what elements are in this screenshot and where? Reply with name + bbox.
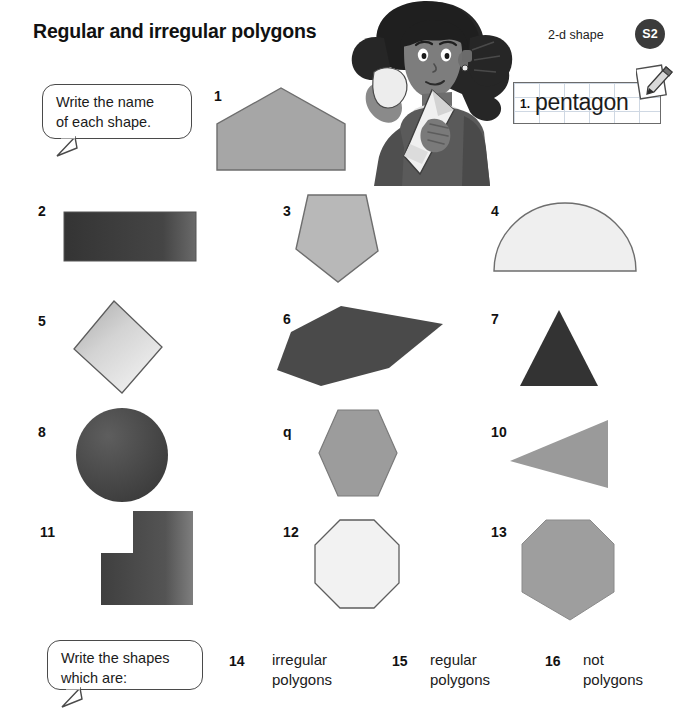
worked-example-answer: pentagon: [535, 89, 629, 116]
shape-13-irregular-heptagon: [520, 518, 616, 622]
pencil-notepad-icon: [636, 63, 676, 101]
bubble-tail: [60, 687, 84, 708]
instruction-bottom-line-1: Write the shapes: [61, 648, 190, 668]
shape-4-semicircle: [492, 200, 638, 274]
instruction-bubble-top: Write the name of each shape.: [42, 84, 192, 139]
shape-9-hexagon: [317, 408, 399, 498]
shape-number-13: 13: [491, 524, 507, 540]
shape-number-5: 5: [38, 313, 46, 329]
bubble-tail: [55, 136, 79, 157]
question-16-line-2: polygons: [583, 670, 643, 690]
instruction-bubble-bottom: Write the shapes which are:: [47, 640, 203, 690]
question-15-line-1: regular: [430, 650, 490, 670]
question-16-line-1: not: [583, 650, 643, 670]
shape-5-tilted-square: [72, 299, 164, 395]
strand-label: 2-d shape: [548, 28, 604, 42]
question-number-16: 16: [545, 653, 561, 669]
shape-1-house-pentagon: [215, 86, 347, 172]
question-number-15: 15: [392, 653, 408, 669]
instruction-bottom-line-2: which are:: [61, 668, 190, 688]
instruction-line-2: of each shape.: [56, 112, 179, 132]
shape-3-pentagon: [294, 193, 380, 284]
girl-with-paper-shapes-illustration: [344, 0, 516, 186]
shape-number-9: q: [283, 424, 292, 440]
shape-number-8: 8: [38, 424, 46, 440]
shape-8-circle: [74, 406, 170, 504]
question-15-line-2: polygons: [430, 670, 490, 690]
shape-number-12: 12: [283, 524, 299, 540]
shape-number-3: 3: [283, 203, 291, 219]
question-number-14: 14: [229, 653, 245, 669]
shape-11-l-shape: [99, 509, 195, 607]
question-text-14: irregular polygons: [272, 650, 332, 690]
shape-2-rectangle: [63, 211, 197, 262]
strand-badge: S2: [635, 19, 665, 49]
instruction-line-1: Write the name: [56, 92, 179, 112]
question-text-16: not polygons: [583, 650, 643, 690]
shape-number-11: 11: [40, 524, 55, 540]
question-14-line-2: polygons: [272, 670, 332, 690]
worked-example-number: 1.: [520, 97, 530, 111]
shape-7-triangle: [518, 308, 600, 388]
question-14-line-1: irregular: [272, 650, 332, 670]
shape-6-elongated-hexagon: [275, 304, 445, 388]
worksheet-page: Regular and irregular polygons 2-d shape…: [0, 0, 686, 714]
page-title: Regular and irregular polygons: [33, 20, 316, 43]
question-text-15: regular polygons: [430, 650, 490, 690]
shape-10-right-pointing-triangle: [508, 418, 610, 490]
shape-12-octagon: [313, 518, 401, 610]
shape-number-10: 10: [491, 424, 507, 440]
shape-number-2: 2: [38, 203, 46, 219]
shape-number-7: 7: [491, 311, 499, 327]
